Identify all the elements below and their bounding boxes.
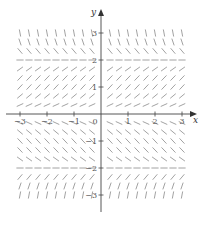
slope-segment (80, 157, 86, 161)
y-tick-label: 2 (92, 56, 97, 65)
slope-segment (143, 130, 149, 135)
slope-segment (62, 67, 68, 71)
slope-segment (152, 67, 158, 71)
slope-segment (163, 29, 164, 36)
slope-segment (27, 138, 32, 143)
slope-segment (82, 39, 84, 46)
slope-segment (36, 138, 41, 143)
slope-segment (63, 48, 68, 54)
slope-segment (18, 84, 23, 89)
slope-segment (91, 39, 93, 46)
slope-segment (55, 39, 57, 46)
slope-segment (154, 29, 155, 36)
slope-segment (172, 191, 173, 198)
slope-segment (172, 29, 173, 36)
slope-segment (181, 29, 182, 36)
slope-segment (62, 130, 68, 135)
slope-segment (163, 39, 165, 46)
slope-segment (118, 191, 119, 198)
slope-segment (37, 39, 39, 46)
slope-segment (116, 157, 122, 161)
slope-segment (109, 29, 110, 36)
slope-segment (161, 130, 167, 135)
y-tick-label: 3 (92, 29, 97, 38)
slope-segment (144, 174, 149, 180)
slope-segment (44, 94, 50, 99)
slope-segment (179, 94, 185, 99)
slope-segment (17, 94, 23, 99)
slope-segment (136, 39, 138, 46)
slope-segment (161, 94, 167, 99)
slope-segment (81, 48, 86, 54)
slope-segment (36, 75, 41, 80)
slope-segment (180, 174, 185, 180)
x-tick-label: 2 (152, 117, 157, 126)
slope-segment (82, 191, 83, 198)
slope-segment (108, 48, 113, 54)
slope-segment (117, 84, 122, 89)
slope-segment (27, 48, 32, 54)
x-tick-label: 3 (179, 117, 184, 126)
slope-segment (54, 138, 59, 143)
slope-segment (152, 130, 158, 135)
slope-segment (107, 67, 113, 71)
slope-segment (108, 174, 113, 180)
slope-segment (152, 157, 158, 161)
slope-segment (171, 84, 176, 89)
slope-segment (143, 104, 150, 107)
slope-segment (154, 183, 156, 190)
slope-segment (180, 48, 185, 54)
slope-segment (53, 130, 59, 135)
x-tick-label: −2 (41, 117, 53, 126)
slope-segment (179, 157, 185, 161)
y-tick-label: −2 (85, 164, 97, 173)
slope-segment (163, 191, 164, 198)
slope-segment (73, 29, 74, 36)
slope-segment (116, 104, 123, 107)
slope-segment (117, 48, 122, 54)
slope-segment (37, 191, 38, 198)
slope-segment (134, 94, 140, 99)
slope-segment (170, 130, 176, 135)
slope-segment (89, 157, 95, 161)
slope-segment (135, 147, 140, 152)
slope-segment (27, 174, 32, 180)
slope-segment (45, 147, 50, 152)
slope-segment (53, 94, 59, 99)
slope-segment (72, 174, 77, 180)
slope-segment (117, 147, 122, 152)
slope-segment (143, 122, 150, 125)
slope-segment (72, 147, 77, 152)
slope-segment (80, 104, 87, 107)
slope-segment (161, 104, 168, 107)
slope-segment (82, 183, 84, 190)
slope-segment (107, 104, 114, 107)
slope-segment (127, 39, 129, 46)
slope-segment (53, 67, 59, 71)
slope-segment (180, 138, 185, 143)
slope-segment (28, 39, 30, 46)
slope-segment (27, 147, 32, 152)
slope-segment (126, 174, 131, 180)
slope-segment (144, 138, 149, 143)
slope-segment (90, 75, 95, 80)
slope-segment (44, 130, 50, 135)
slope-segment (170, 157, 176, 161)
slope-segment (90, 174, 95, 180)
slope-segment (108, 75, 113, 80)
slope-segment (162, 147, 167, 152)
slope-segment (170, 67, 176, 71)
slope-segment (125, 67, 131, 71)
slope-segment (71, 94, 77, 99)
slope-segment (109, 39, 111, 46)
slope-segment (179, 104, 186, 107)
slope-segment (45, 84, 50, 89)
slope-segment (89, 94, 95, 99)
slope-segment (172, 39, 174, 46)
slope-segment (64, 183, 66, 190)
slope-segment (17, 104, 24, 107)
slope-segment (46, 183, 48, 190)
slope-segment (145, 191, 146, 198)
slope-segment (109, 183, 111, 190)
slope-segment (26, 130, 32, 135)
